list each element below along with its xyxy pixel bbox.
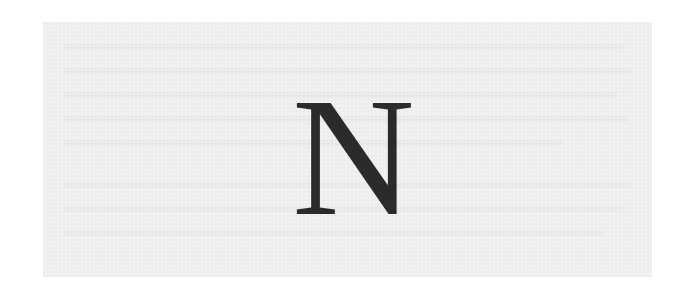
large-letter: N: [43, 22, 652, 277]
paper-panel: N: [43, 22, 652, 277]
page: N: [0, 0, 691, 304]
